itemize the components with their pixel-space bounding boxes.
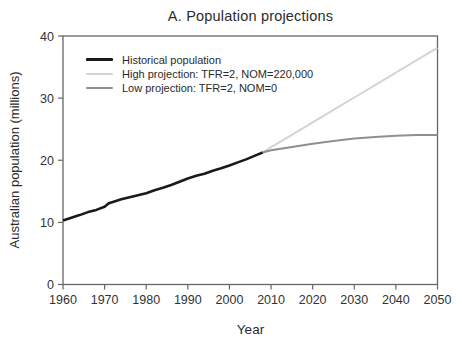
x-tick-label-2020: 2020 [299,293,327,307]
y-tick-label-40: 40 [40,30,54,44]
y-tick-label-30: 30 [40,92,54,106]
legend-swatch-high-projection [86,73,113,75]
x-axis-title: Year [63,322,438,337]
y-tick-label-20: 20 [40,154,54,168]
legend-row-historical: Historical population [86,54,313,65]
x-tick-label-2010: 2010 [257,293,285,307]
legend-row-high-projection: High projection: TFR=2, NOM=220,000 [86,68,313,79]
x-tick-label-1980: 1980 [132,293,160,307]
x-tick-label-2000: 2000 [216,293,244,307]
x-tick-label-1970: 1970 [91,293,119,307]
legend: Historical population High projection: T… [86,54,313,93]
x-tick-label-2040: 2040 [382,293,410,307]
legend-label-high-projection: High projection: TFR=2, NOM=220,000 [122,68,313,80]
legend-label-historical: Historical population [122,54,221,66]
x-tick-label-1990: 1990 [174,293,202,307]
population-projections-figure: A. Population projections Australian pop… [0,0,462,358]
y-tick-label-10: 10 [40,216,54,230]
x-tick-label-1960: 1960 [49,293,77,307]
y-tick-label-0: 0 [47,278,54,292]
x-tick-label-2050: 2050 [424,293,452,307]
legend-label-low-projection: Low projection: TFR=2, NOM=0 [122,82,277,94]
historical-line [63,153,263,221]
x-tick-label-2030: 2030 [340,293,368,307]
legend-swatch-historical [86,58,113,61]
legend-row-low-projection: Low projection: TFR=2, NOM=0 [86,82,313,93]
legend-swatch-low-projection [86,87,113,89]
